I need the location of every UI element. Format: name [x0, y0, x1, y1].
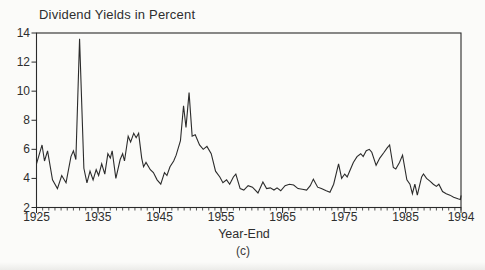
x-tick-label: 1935: [85, 210, 112, 224]
y-tick-label: 4: [2, 171, 30, 185]
x-tick-label: 1975: [331, 210, 358, 224]
x-tick-label: 1994: [448, 210, 475, 224]
panel-caption: (c): [236, 244, 250, 258]
y-tick-label: 8: [2, 113, 30, 127]
y-tick-label: 12: [2, 55, 30, 69]
y-tick-label: 6: [2, 142, 30, 156]
y-tick-label: 14: [2, 26, 30, 40]
scanned-figure-page: Dividend Yields in Percent 14 12 10 8 6 …: [0, 0, 485, 270]
x-tick-label: 1965: [269, 210, 296, 224]
x-tick-label: 1985: [392, 210, 419, 224]
x-tick-label: 1925: [23, 210, 50, 224]
y-tick-label: 10: [2, 84, 30, 98]
x-tick-label: 1955: [208, 210, 235, 224]
x-tick-label: 1945: [146, 210, 173, 224]
x-axis-title: Year-End: [218, 227, 270, 241]
